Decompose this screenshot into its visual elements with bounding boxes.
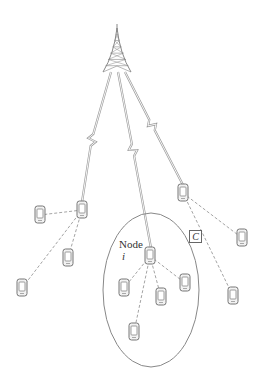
device-icon <box>228 287 238 304</box>
device-icon <box>63 249 73 266</box>
cluster-head-device-icon <box>145 247 155 264</box>
devices <box>17 184 247 340</box>
device-icon <box>35 206 45 223</box>
cluster-head-device-icon <box>178 184 188 201</box>
cluster-links <box>22 193 242 332</box>
device-icon <box>129 323 139 340</box>
wireless-uplinks <box>82 72 183 248</box>
cluster-label-box: C <box>189 230 202 243</box>
device-icon <box>237 229 247 246</box>
device-icon <box>180 274 190 291</box>
node-index-label: i <box>122 251 125 262</box>
device-icon <box>17 279 27 296</box>
node-label: Node <box>119 239 143 250</box>
cluster-head-device-icon <box>77 201 87 218</box>
device-icon <box>119 279 129 296</box>
network-diagram <box>0 0 263 369</box>
cell-tower-icon <box>103 24 131 72</box>
device-icon <box>156 288 166 305</box>
